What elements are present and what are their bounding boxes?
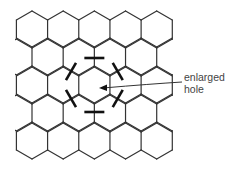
bond-break-marker (113, 63, 123, 80)
diagram-canvas: enlarged hole (0, 0, 230, 176)
label-enlarged: enlarged (184, 72, 225, 83)
bond-break-marker (113, 90, 123, 107)
bond-break-marker (66, 63, 76, 80)
bond-break-marker (66, 90, 76, 107)
arrow-icon (99, 82, 182, 91)
lattice-edges (1, 11, 188, 159)
label-hole: hole (184, 84, 204, 95)
